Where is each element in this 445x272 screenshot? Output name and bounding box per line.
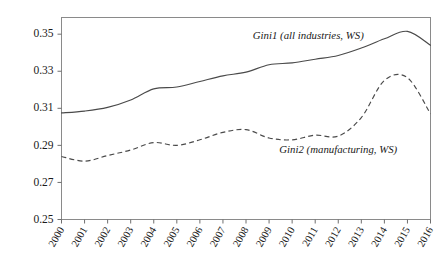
y-axis-tick-label: 0.25 bbox=[33, 213, 53, 225]
x-axis-tick-label: 2007 bbox=[208, 225, 228, 249]
x-axis-tick-label: 2012 bbox=[323, 225, 343, 249]
x-axis-tick-label: 2006 bbox=[185, 225, 205, 249]
y-axis-tick-label: 0.31 bbox=[33, 101, 53, 113]
x-axis-tick-label: 2008 bbox=[231, 225, 251, 249]
y-axis-tick-marks bbox=[58, 34, 62, 219]
series-annotation-gini1: Gini1 (all industries, WS) bbox=[253, 29, 364, 42]
x-axis-tick-label: 2016 bbox=[415, 225, 435, 249]
x-axis-tick-label: 2004 bbox=[138, 224, 158, 248]
x-axis-tick-label: 2003 bbox=[115, 225, 135, 249]
line-chart: 0.250.270.290.310.330.35 200020012002200… bbox=[0, 0, 445, 272]
x-axis-tick-label: 2002 bbox=[92, 225, 112, 249]
chart-container: 0.250.270.290.310.330.35 200020012002200… bbox=[0, 0, 445, 272]
plot-area-frame bbox=[62, 18, 431, 220]
x-axis-tick-label: 2010 bbox=[277, 225, 297, 249]
x-axis-tick-label: 2013 bbox=[346, 225, 366, 249]
y-axis-tick-label: 0.33 bbox=[33, 64, 53, 76]
y-axis-tick-label: 0.27 bbox=[33, 176, 53, 188]
series-annotation-gini2: Gini2 (manufacturing, WS) bbox=[279, 143, 397, 156]
y-axis-tick-label: 0.35 bbox=[33, 27, 53, 39]
x-axis-tick-label: 2015 bbox=[392, 225, 412, 249]
x-axis-tick-label: 2011 bbox=[300, 225, 320, 248]
x-axis-tick-label: 2000 bbox=[46, 225, 66, 249]
x-axis-tick-label: 2009 bbox=[254, 225, 274, 249]
y-axis-tick-labels: 0.250.270.290.310.330.35 bbox=[33, 27, 53, 224]
x-axis-tick-label: 2001 bbox=[69, 225, 89, 249]
x-axis-tick-labels: 2000200120022003200420052006200720082009… bbox=[46, 224, 435, 248]
y-axis-tick-label: 0.29 bbox=[33, 139, 53, 151]
x-axis-tick-label: 2014 bbox=[369, 224, 389, 248]
x-axis-tick-label: 2005 bbox=[162, 225, 182, 249]
x-axis-tick-marks bbox=[62, 220, 431, 224]
